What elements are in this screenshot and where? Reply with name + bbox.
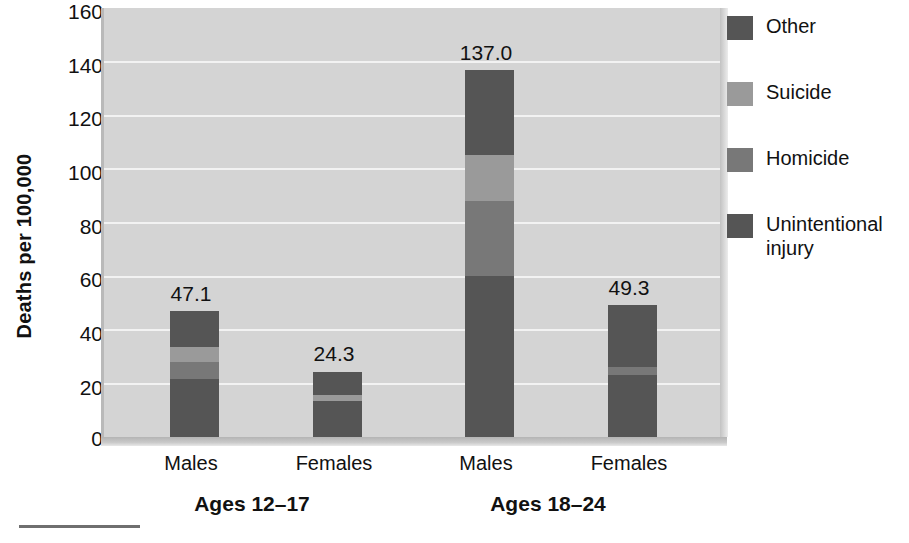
y-tick-160: 160 xyxy=(33,1,103,22)
y-tick-100: 100 xyxy=(33,162,103,183)
legend-item-homicide[interactable]: Homicide xyxy=(727,146,909,172)
bar-segment-homicide xyxy=(170,362,219,379)
legend-item-other[interactable]: Other xyxy=(727,14,909,40)
legend-label-homicide: Homicide xyxy=(766,146,849,170)
legend-swatch-other-icon xyxy=(727,16,753,40)
x-tick-males-12-17: Males xyxy=(121,452,261,475)
bar-segment-unintentional-injury xyxy=(608,375,657,437)
bar-females-18-24[interactable] xyxy=(608,305,657,437)
legend-label-unintentional-injury: Unintentional injury xyxy=(766,212,909,260)
legend-swatch-suicide-icon xyxy=(727,82,753,106)
legend-swatch-unintentional-injury-icon xyxy=(727,214,753,238)
bar-segment-unintentional-injury xyxy=(313,401,362,437)
gridline-100 xyxy=(104,168,723,170)
bar-value-males-12-17: 47.1 xyxy=(131,283,251,304)
chart-figure: Deaths per 100,000 160 140 120 100 80 60… xyxy=(0,0,909,543)
y-tick-140: 140 xyxy=(33,55,103,76)
bar-segment-suicide xyxy=(170,347,219,362)
y-tick-60: 60 xyxy=(33,269,103,290)
gridline-140 xyxy=(104,61,723,63)
bar-segment-other xyxy=(465,70,514,156)
legend-label-suicide: Suicide xyxy=(766,80,832,104)
legend-item-suicide[interactable]: Suicide xyxy=(727,80,909,106)
bar-segment-homicide xyxy=(465,201,514,276)
bar-males-12-17[interactable] xyxy=(170,311,219,437)
y-tick-80: 80 xyxy=(33,216,103,237)
y-tick-0: 0 xyxy=(33,428,103,449)
legend-label-other: Other xyxy=(766,14,816,38)
legend: Other Suicide Homicide Unintentional inj… xyxy=(727,14,909,300)
bar-segment-other xyxy=(313,372,362,396)
gridline-120 xyxy=(104,115,723,117)
bar-value-females-18-24: 49.3 xyxy=(569,277,689,298)
x-tick-females-18-24: Females xyxy=(559,452,699,475)
bar-males-18-24[interactable] xyxy=(465,70,514,437)
bar-segment-suicide xyxy=(465,155,514,201)
bar-segment-homicide xyxy=(608,367,657,375)
legend-item-unintentional-injury[interactable]: Unintentional injury xyxy=(727,212,909,260)
group-label-ages-12-17: Ages 12–17 xyxy=(122,492,382,516)
bar-segment-other xyxy=(170,311,219,347)
legend-swatch-homicide-icon xyxy=(727,148,753,172)
bar-value-females-12-17: 24.3 xyxy=(274,343,394,364)
y-axis-title: Deaths per 100,000 xyxy=(7,81,41,411)
bar-segment-other xyxy=(608,305,657,367)
plot-area xyxy=(101,8,723,437)
bar-segment-unintentional-injury xyxy=(170,379,219,437)
footnote-rule xyxy=(19,525,140,528)
bar-females-12-17[interactable] xyxy=(313,372,362,437)
y-tick-120: 120 xyxy=(33,108,103,129)
bar-value-males-18-24: 137.0 xyxy=(426,42,546,63)
bar-segment-unintentional-injury xyxy=(465,276,514,437)
group-label-ages-18-24: Ages 18–24 xyxy=(418,492,678,516)
y-tick-40: 40 xyxy=(33,323,103,344)
y-tick-20: 20 xyxy=(33,377,103,398)
axis-base-shadow xyxy=(101,437,727,446)
gridline-80 xyxy=(104,222,723,224)
x-tick-males-18-24: Males xyxy=(416,452,556,475)
x-tick-females-12-17: Females xyxy=(264,452,404,475)
